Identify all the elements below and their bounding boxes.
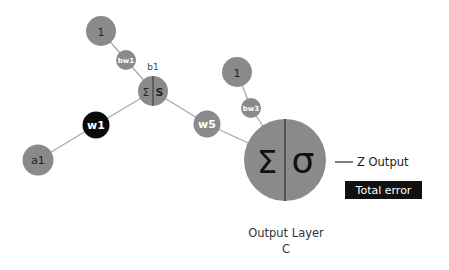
w1-label: w1 (87, 119, 105, 132)
bias-node-output-label: 1 (234, 67, 241, 80)
bw1-label: bw1 (118, 57, 134, 65)
bias-node-hidden[interactable]: 1 (86, 16, 116, 46)
input-node-a1[interactable]: a1 (23, 145, 54, 176)
output-sum-symbol: Σ (257, 143, 277, 181)
total-error-box: Total error (345, 181, 422, 199)
bias-node-hidden-label: 1 (98, 26, 105, 39)
output-layer-sublabel: C (282, 242, 290, 256)
bias-weight-bw1[interactable]: bw1 (116, 50, 136, 70)
bias-weight-bw3[interactable]: bw3 (241, 98, 261, 118)
z-output-label: Z Output (357, 155, 409, 169)
weight-w5[interactable]: w5 (194, 111, 221, 138)
total-error-label: Total error (355, 184, 412, 197)
hidden-neuron[interactable]: Σ S (138, 76, 168, 106)
neural-network-diagram: 1 bw1 b1 Σ S w1 a1 w5 1 bw3 (0, 0, 449, 270)
output-neuron[interactable]: Σ σ (244, 119, 326, 201)
hidden-activation-symbol: S (156, 86, 164, 99)
w5-label: w5 (198, 118, 216, 131)
bias-node-output[interactable]: 1 (222, 57, 252, 87)
weight-w1[interactable]: w1 (83, 112, 110, 139)
output-layer-label: Output Layer (248, 226, 324, 240)
output-activation-symbol: σ (292, 140, 315, 181)
a1-label: a1 (31, 154, 45, 167)
hidden-sum-symbol: Σ (143, 87, 149, 98)
bw3-label: bw3 (243, 105, 259, 113)
hidden-bias-label: b1 (147, 62, 158, 72)
